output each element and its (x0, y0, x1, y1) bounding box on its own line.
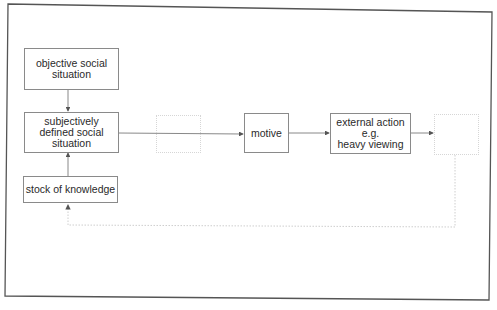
node-label: motive (251, 128, 282, 139)
node-subjectively-defined-social-situation: subjectively defined social situation (24, 112, 119, 153)
node-blank-placeholder-2 (434, 114, 479, 155)
node-label: objective social situation (36, 58, 107, 80)
node-motive: motive (244, 113, 289, 153)
node-stock-of-knowledge: stock of knowledge (23, 176, 118, 203)
feedback-loop-line (68, 155, 455, 227)
node-label: external action e.g. heavy viewing (336, 117, 404, 150)
diagram-canvas: objective social situation subjectively … (0, 0, 497, 310)
node-label: stock of knowledge (26, 184, 115, 195)
node-objective-social-situation: objective social situation (24, 48, 119, 90)
node-blank-placeholder-1 (156, 115, 201, 153)
node-external-action: external action e.g. heavy viewing (330, 113, 411, 154)
connectors (0, 0, 497, 310)
node-label: subjectively defined social situation (39, 116, 103, 149)
